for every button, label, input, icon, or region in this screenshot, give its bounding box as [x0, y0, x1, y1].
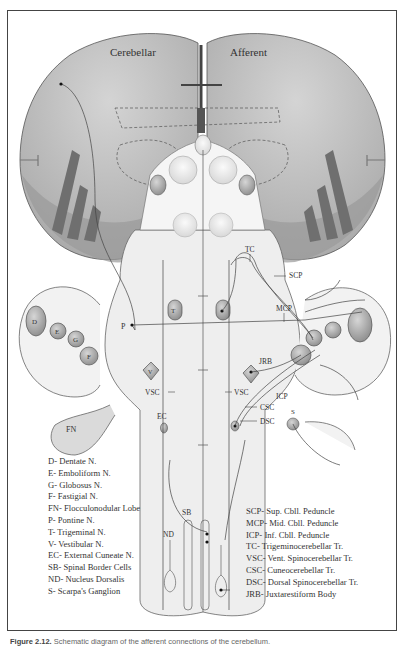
caption-text: Schematic diagram of the afferent connec… [54, 637, 270, 646]
label-V: V [148, 369, 153, 375]
legend-item: T- Trigeminal N. [48, 527, 140, 539]
legend-item: TC- Trigeminocerebellar Tr. [246, 541, 358, 553]
label-TC: TC [245, 245, 255, 254]
legend-item: CSC- Cuneocerebellar Tr. [246, 565, 358, 577]
label-ICP: ICP [276, 392, 288, 401]
legend-item: D- Dentate N. [48, 456, 140, 468]
label-G: G [73, 336, 78, 344]
legend-item: V- Vestibular N. [48, 539, 140, 551]
legend-item: P- Pontine N. [48, 515, 140, 527]
nucleus-EC [161, 423, 168, 433]
label-T: T [171, 307, 176, 315]
legend-tracts: SCP- Sup. Cbll. Peduncle MCP- Mid. Cbll.… [246, 506, 358, 600]
label-MCP: MCP [276, 304, 292, 313]
legend-item: MCP- Mid. Cbll. Peduncle [246, 518, 358, 530]
flocculonodular-lobe [51, 405, 115, 455]
caption-label: Figure 2.12. [10, 637, 52, 646]
label-EC: EC [157, 412, 167, 421]
label-VSC-left: VSC [145, 388, 160, 397]
legend-nuclei: D- Dentate N. E- Emboliform N. G- Globos… [48, 456, 140, 598]
label-FN: FN [66, 425, 76, 434]
label-P: P [121, 322, 126, 331]
label-SB: SB [182, 508, 191, 517]
label-ND: ND [163, 530, 174, 539]
legend-item: FN- Flocculonodular Lobe [48, 503, 140, 515]
title-cerebellar: Cerebellar [110, 46, 156, 58]
legend-item: DSC- Dorsal Spinocerebellar Tr. [246, 577, 358, 589]
label-E: E [55, 328, 59, 336]
label-DSC: DSC [260, 417, 275, 426]
legend-item: ND- Nucleus Dorsalis [48, 574, 140, 586]
label-F: F [87, 353, 91, 361]
legend-item: ICP- Inf. Cbll. Peduncle [246, 530, 358, 542]
figure-caption: Figure 2.12. Schematic diagram of the af… [10, 637, 270, 646]
label-CSC: CSC [260, 403, 274, 412]
label-D: D [32, 318, 37, 326]
label-SCP: SCP [289, 271, 302, 280]
legend-item: SCP- Sup. Cbll. Peduncle [246, 506, 358, 518]
label-JRB: JRB [259, 357, 272, 366]
legend-item: VSC- Vent. Spinocerebellar Tr. [246, 553, 358, 565]
legend-item: EC- External Cuneate N. [48, 550, 140, 562]
label-S: S [291, 408, 295, 416]
legend-item: G- Globosus N. [48, 480, 140, 492]
title-afferent: Afferent [230, 46, 267, 58]
legend-item: F- Fastigial N. [48, 491, 140, 503]
legend-item: JRB- Juxtarestiform Body [246, 589, 358, 601]
legend-item: SB- Spinal Border Cells [48, 562, 140, 574]
label-VSC-right: VSC [234, 388, 249, 397]
legend-item: E- Emboliform N. [48, 468, 140, 480]
right-nuclei-panel [291, 288, 391, 450]
legend-item: S- Scarpa's Ganglion [48, 586, 140, 598]
